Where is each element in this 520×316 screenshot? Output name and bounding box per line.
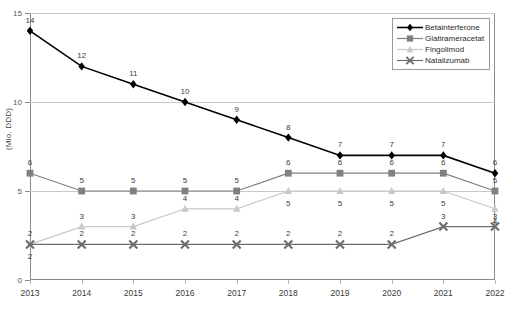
data-point-marker <box>78 62 85 70</box>
data-point-marker <box>388 151 395 159</box>
legend: BetainterferoneGlatirameracetatFingolimo… <box>392 18 490 70</box>
x-axis-label: 2014 <box>72 288 91 298</box>
legend-marker-icon <box>397 22 423 33</box>
y-axis-tick-label: 5 <box>18 187 22 196</box>
data-point-marker <box>233 116 240 124</box>
y-axis-tick-label: 15 <box>13 9 22 18</box>
data-point-marker <box>285 133 292 141</box>
legend-label: Glatirameracetat <box>425 34 484 43</box>
legend-marker-icon <box>397 55 423 66</box>
x-axis-tick <box>495 280 496 284</box>
x-axis-tick <box>237 280 238 284</box>
data-point-marker <box>78 188 85 195</box>
data-point-marker <box>130 80 137 88</box>
legend-marker-icon <box>397 44 423 55</box>
x-axis-tick <box>340 280 341 284</box>
line-chart: (Mio. DDD) 051015 1412111098777665555666… <box>0 0 520 316</box>
x-axis-label: 2015 <box>124 288 143 298</box>
legend-label: Natalizumab <box>425 56 469 65</box>
data-point-marker <box>337 170 344 177</box>
data-point-marker <box>285 170 292 177</box>
x-axis-tick <box>82 280 83 284</box>
data-point-marker <box>492 169 499 177</box>
series-line <box>30 173 495 191</box>
x-axis-label: 2019 <box>331 288 350 298</box>
series-line <box>30 191 495 244</box>
data-point-marker <box>182 98 189 106</box>
legend-item-glatirameracetat[interactable]: Glatirameracetat <box>397 33 484 44</box>
series-line <box>30 227 495 245</box>
data-point-marker <box>337 151 344 159</box>
x-axis-label: 2021 <box>434 288 453 298</box>
legend-item-natalizumab[interactable]: Natalizumab <box>397 55 484 66</box>
legend-label: Fingolimod <box>425 45 464 54</box>
x-axis-tick <box>133 280 134 284</box>
data-point-marker <box>27 27 34 35</box>
x-axis-tick <box>30 280 31 284</box>
x-axis-label: 2020 <box>382 288 401 298</box>
data-point-marker <box>492 188 499 195</box>
x-axis-tick <box>443 280 444 284</box>
data-point-marker <box>440 170 447 177</box>
data-point-marker <box>182 188 189 195</box>
data-point-marker <box>130 188 137 195</box>
x-axis-label: 2016 <box>176 288 195 298</box>
y-axis-tick-label: 0 <box>18 276 22 285</box>
x-axis-label: 2017 <box>227 288 246 298</box>
legend-label: Betainterferone <box>425 23 480 32</box>
x-axis-label: 2013 <box>21 288 40 298</box>
x-axis-tick <box>392 280 393 284</box>
data-point-marker <box>233 188 240 195</box>
data-point-marker <box>388 170 395 177</box>
x-axis-tick <box>185 280 186 284</box>
legend-marker-icon <box>397 33 423 44</box>
legend-item-betainterferone[interactable]: Betainterferone <box>397 22 484 33</box>
x-axis-tick <box>288 280 289 284</box>
series-fingolimod <box>26 187 498 247</box>
y-axis-title: (Mio. DDD) <box>4 108 13 150</box>
y-axis-tick-label: 10 <box>13 98 22 107</box>
data-point-marker <box>27 170 34 177</box>
legend-item-fingolimod[interactable]: Fingolimod <box>397 44 484 55</box>
data-point-marker <box>440 151 447 159</box>
x-axis-label: 2018 <box>279 288 298 298</box>
x-axis-label: 2022 <box>486 288 505 298</box>
